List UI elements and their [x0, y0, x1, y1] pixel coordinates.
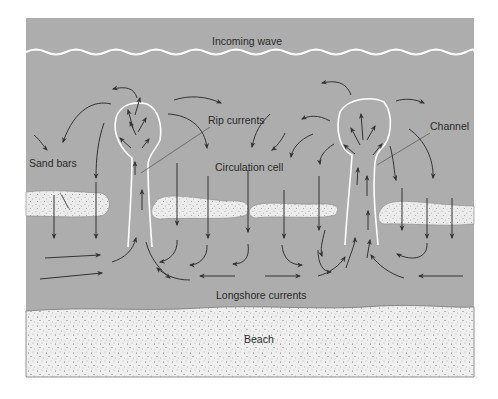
- rip-currents-label: Rip currents: [208, 115, 265, 126]
- incoming-wave-label: Incoming wave: [212, 36, 282, 47]
- beach-label: Beach: [244, 334, 274, 345]
- circulation-cell-label: Circulation cell: [215, 162, 283, 173]
- sand-bars-label: Sand bars: [29, 158, 77, 169]
- longshore-currents-label: Longshore currents: [216, 290, 306, 301]
- channel-label: Channel: [430, 121, 469, 132]
